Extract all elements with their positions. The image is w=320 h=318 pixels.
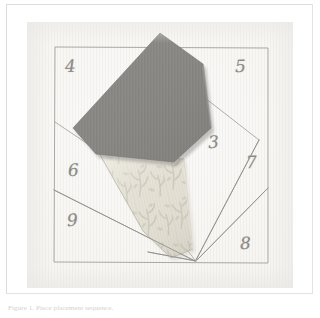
section-number-7: 7 — [246, 154, 257, 171]
cream-floral-fabric-piece — [99, 153, 196, 261]
section-number-8: 8 — [240, 235, 251, 252]
dark-gray-fabric-piece — [73, 33, 214, 166]
section-number-6: 6 — [68, 162, 80, 180]
figure-page: 4 5 3 6 7 9 8 Figure 1. Piece placement … — [0, 0, 320, 318]
quilt-block-photo: 4 5 3 6 7 9 8 — [27, 22, 293, 288]
section-number-3: 3 — [207, 134, 219, 152]
section-number-4: 4 — [65, 58, 77, 76]
figure-caption: Figure 1. Piece placement sequence. — [8, 303, 308, 313]
section-number-9: 9 — [67, 212, 79, 230]
section-number-5: 5 — [235, 58, 246, 75]
